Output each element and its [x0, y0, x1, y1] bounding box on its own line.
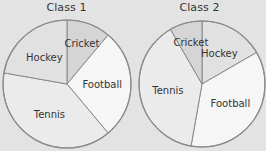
slice-label-hockey: Hockey: [201, 48, 238, 59]
slice-label-football: Football: [82, 79, 122, 90]
slice-label-tennis: Tennis: [33, 109, 65, 120]
slice-label-football: Football: [211, 98, 251, 109]
pie-svg: HockeyFootballTennisCricket: [133, 0, 266, 151]
slice-label-hockey: Hockey: [26, 52, 63, 63]
pie-chart-class-1: Class 1 CricketFootballTennisHockey: [0, 0, 133, 151]
slice-label-tennis: Tennis: [151, 85, 183, 96]
pie-svg: CricketFootballTennisHockey: [0, 0, 133, 151]
slice-label-cricket: Cricket: [173, 37, 208, 48]
pie-chart-class-2: Class 2 HockeyFootballTennisCricket: [133, 0, 266, 151]
slice-label-cricket: Cricket: [64, 38, 99, 49]
